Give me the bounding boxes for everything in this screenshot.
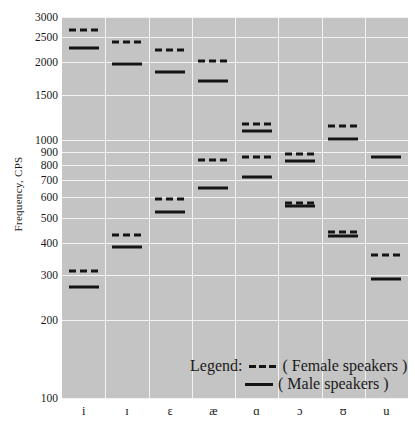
legend-female-label: ( Female speakers ) xyxy=(282,357,407,375)
marker-i-F1-female xyxy=(69,270,99,273)
y-tick-label-600: 600 xyxy=(0,191,58,203)
legend-title: Legend: xyxy=(190,357,242,375)
marker-ʊ-F1-male xyxy=(328,234,358,237)
gridline-x-1 xyxy=(105,17,106,398)
marker-ɑ-F1-male xyxy=(242,175,272,178)
gridline-y-100 xyxy=(62,398,408,399)
marker-ɪ-F2-female xyxy=(112,40,142,43)
x-tick-label-2: ɛ xyxy=(150,404,190,419)
marker-u-F2-male xyxy=(371,155,401,158)
y-tick-label-300: 300 xyxy=(0,269,58,281)
gridline-x-2 xyxy=(149,17,150,398)
y-tick-label-2000: 2000 xyxy=(0,56,58,68)
marker-æ-F2-male xyxy=(198,79,228,82)
marker-ʊ-F1-female xyxy=(328,231,358,234)
marker-ɑ-F1-female xyxy=(242,155,272,158)
x-tick-label-3: æ xyxy=(193,404,233,419)
y-tick-label-900: 900 xyxy=(0,146,58,158)
x-tick-label-6: ʊ xyxy=(323,404,363,419)
y-tick-label-200: 200 xyxy=(0,314,58,326)
marker-ɪ-F2-male xyxy=(112,63,142,66)
y-tick-label-700: 700 xyxy=(0,174,58,186)
gridline-x-6 xyxy=(322,17,323,398)
x-tick-label-5: ɔ xyxy=(280,404,320,419)
marker-ʊ-F2-female xyxy=(328,125,358,128)
marker-i-F2-female xyxy=(69,28,99,31)
y-tick-label-400: 400 xyxy=(0,237,58,249)
marker-ɛ-F1-female xyxy=(155,198,185,201)
marker-ɛ-F2-female xyxy=(155,48,185,51)
x-tick-label-1: ɪ xyxy=(107,404,147,419)
marker-æ-F2-female xyxy=(198,60,228,63)
y-tick-label-1500: 1500 xyxy=(0,89,58,101)
marker-ɔ-F2-female xyxy=(285,153,315,156)
gridline-x-3 xyxy=(192,17,193,398)
x-tick-label-7: u xyxy=(366,404,406,419)
marker-i-F2-male xyxy=(69,46,99,49)
legend-male-swatch-icon xyxy=(245,383,273,386)
marker-æ-F1-male xyxy=(198,187,228,190)
legend-male-label: ( Male speakers ) xyxy=(278,375,389,393)
marker-ɪ-F1-male xyxy=(112,245,142,248)
legend-female-row: Legend: ( Female speakers ) xyxy=(190,357,407,375)
y-tick-label-800: 800 xyxy=(0,159,58,171)
plot-area: Legend: ( Female speakers ) ( Male speak… xyxy=(62,17,408,398)
legend-female-swatch-icon xyxy=(249,365,277,368)
x-tick-label-0: i xyxy=(64,404,104,419)
gridline-x-4 xyxy=(235,17,236,398)
gridline-x-7 xyxy=(365,17,366,398)
y-tick-label-3000: 3000 xyxy=(0,11,58,23)
marker-ɑ-F2-female xyxy=(242,123,272,126)
marker-ɔ-F2-male xyxy=(285,159,315,162)
marker-ɪ-F1-female xyxy=(112,233,142,236)
marker-ɛ-F1-male xyxy=(155,211,185,214)
marker-u-F1-male xyxy=(371,277,401,280)
marker-ɔ-F1-male xyxy=(285,205,315,208)
vowel-formant-chart: Frequency, CPS 1002003004005006007008009… xyxy=(0,0,415,434)
marker-ɑ-F2-male xyxy=(242,130,272,133)
marker-i-F1-male xyxy=(69,285,99,288)
x-tick-label-4: ɑ xyxy=(237,404,277,419)
legend-male-row: ( Male speakers ) xyxy=(245,375,389,393)
y-tick-label-2500: 2500 xyxy=(0,31,58,43)
marker-ʊ-F2-male xyxy=(328,137,358,140)
y-tick-label-500: 500 xyxy=(0,212,58,224)
marker-u-F2-female xyxy=(371,253,401,256)
gridline-x-5 xyxy=(278,17,279,398)
marker-ɛ-F2-male xyxy=(155,70,185,73)
marker-æ-F1-female xyxy=(198,158,228,161)
y-tick-label-1000: 1000 xyxy=(0,134,58,146)
y-tick-label-100: 100 xyxy=(0,392,58,404)
